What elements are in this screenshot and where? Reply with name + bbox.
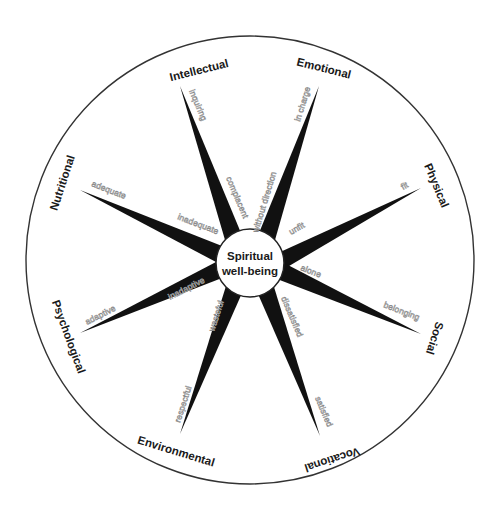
pole-fit: fit bbox=[399, 179, 410, 191]
center-circle bbox=[216, 229, 284, 297]
wellness-wheel-diagram: Spiritual well-being Intellectual Emotio… bbox=[0, 0, 494, 512]
label-vocational: Vocational bbox=[303, 445, 361, 474]
center-label-line2: well-being bbox=[221, 265, 278, 277]
label-physical: Physical bbox=[422, 162, 451, 210]
label-emotional: Emotional bbox=[296, 56, 353, 81]
label-environmental: Environmental bbox=[136, 434, 216, 469]
center-label-line1: Spiritual bbox=[227, 250, 273, 262]
pole-unfit: unfit bbox=[287, 220, 307, 237]
pole-satisfied: satisfied bbox=[313, 395, 335, 429]
label-nutritional: Nutritional bbox=[48, 154, 77, 212]
spoke-environmental bbox=[180, 286, 242, 434]
label-psychological: Psychological bbox=[50, 298, 88, 375]
spoke-psychological bbox=[80, 262, 222, 333]
label-intellectual: Intellectual bbox=[168, 57, 229, 83]
spoke-emotional bbox=[259, 86, 319, 240]
label-social: Social bbox=[424, 320, 446, 356]
